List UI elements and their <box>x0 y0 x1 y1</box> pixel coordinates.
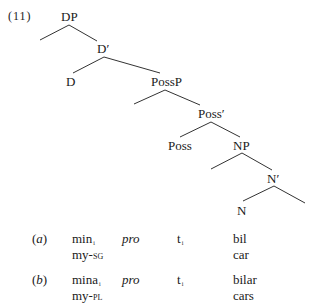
noun-word: bilar <box>233 273 257 287</box>
trace-word: ti <box>177 273 183 291</box>
trace-word: ti <box>177 232 183 250</box>
pro-word: pro <box>122 273 140 287</box>
noun-gloss: cars <box>233 289 254 303</box>
example-label: (a)(a) <box>32 232 47 246</box>
node-np: NP <box>233 139 250 152</box>
pro-word: pro <box>122 232 140 246</box>
tree-branches <box>0 0 314 230</box>
node-n: N <box>237 204 246 217</box>
node-d-bar: D′ <box>97 42 109 55</box>
example-label: (b)(b) <box>32 273 47 287</box>
noun-gloss: car <box>233 248 249 262</box>
node-poss-bar: Poss′ <box>198 107 225 120</box>
node-n-bar: N′ <box>267 172 279 185</box>
noun-word: bil <box>233 232 247 246</box>
node-d: D <box>66 75 75 88</box>
node-dp: DP <box>61 10 78 23</box>
node-poss: Poss <box>168 139 192 152</box>
determiner-gloss: my-pl <box>72 289 102 303</box>
node-possp: PossP <box>151 75 182 88</box>
determiner-gloss: my-sg <box>72 248 103 262</box>
